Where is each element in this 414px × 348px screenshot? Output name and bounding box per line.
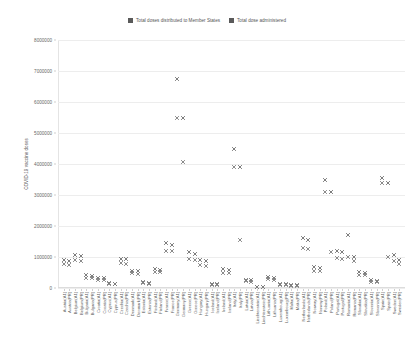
x-axis-tick-label-text: Finland(PR): [158, 292, 163, 314]
x-axis-tick-label-text: Netherlands(A1): [300, 292, 305, 322]
data-point-marker: [334, 248, 339, 253]
x-axis-tick-label-text: Luxembourg(PR): [283, 292, 288, 323]
data-point-marker: [186, 250, 191, 255]
x-axis-tick-label: Cyprus(PR): [115, 271, 120, 292]
x-axis-tick-label: Estonia(A1): [143, 271, 148, 292]
data-point-marker: [351, 258, 356, 263]
x-axis-tick-label: Greece(PR): [195, 270, 200, 292]
legend-swatch-administered: [229, 18, 234, 23]
x-axis-tick-label: Croatia(PR): [104, 271, 109, 292]
x-axis-tick-label: Luxembourg(A1): [280, 262, 285, 292]
x-axis-tick-label-text: Lithuania(PR): [272, 292, 277, 317]
x-axis-tick-label: France(A1): [166, 272, 171, 292]
x-axis-tick-label-text: Belgium(PR): [78, 292, 83, 315]
y-axis-tick-label: 5000000: [34, 131, 52, 136]
x-axis-tick-label-text: Poland(PR): [329, 292, 334, 313]
x-axis-tick-label-text: Latvia(PR): [249, 292, 254, 311]
x-axis-tick-label-text: Romania(A1): [346, 292, 351, 316]
x-axis-tick-label: Portugal(A1): [337, 269, 342, 292]
gridline: [58, 102, 405, 103]
x-axis-tick-label: Netherlands(A1): [303, 262, 308, 292]
y-axis-tick-mark: [54, 102, 56, 103]
x-axis-tick-label-text: Portugal(A1): [334, 292, 339, 315]
x-axis-tick-label: Lithuania(PR): [274, 267, 279, 292]
x-axis-tick-label: Cyprus(A1): [109, 271, 114, 292]
x-axis-tick-label: Romania(A1): [348, 268, 353, 292]
x-axis-tick-label: Belgium(A1): [75, 270, 80, 292]
legend-label-distributed: Total doses distributed to Member States: [136, 18, 220, 23]
legend-item-administered[interactable]: Total dose administered: [229, 18, 286, 23]
x-axis-tick-label-text: Norway(PR): [317, 292, 322, 314]
data-point-marker: [203, 258, 208, 263]
data-point-marker: [232, 165, 237, 170]
x-axis-tick-label: Bulgaria(A1): [86, 269, 91, 292]
y-axis-tick-mark: [54, 133, 56, 134]
x-axis-tick-label: Estonia(PR): [149, 270, 154, 292]
x-axis-tick-label: Denmark(A1): [132, 268, 137, 292]
y-axis-tick-mark: [54, 40, 56, 41]
data-point-marker: [306, 237, 311, 242]
x-axis-tick-label: Malta(A1): [291, 274, 296, 292]
legend-item-distributed[interactable]: Total doses distributed to Member States: [128, 18, 220, 23]
x-axis-tick-label: Iceland(PR): [217, 271, 222, 292]
gridline: [58, 195, 405, 196]
data-point-marker: [397, 258, 402, 263]
x-axis-tick-label: Ireland(PR): [229, 271, 234, 292]
x-axis-tick-label-text: Bulgaria(A1): [84, 292, 89, 315]
x-axis-tick-label-text: Cyprus(A1): [107, 292, 112, 313]
x-axis-tick-label: Spain(PR): [388, 273, 393, 292]
x-axis-tick-label: Luxembourg(PR): [286, 261, 291, 292]
x-axis-tick-label-text: Denmark(A1): [129, 292, 134, 316]
data-point-marker: [300, 236, 305, 241]
x-axis-tick-label-text: Italy(PR): [238, 292, 243, 308]
x-axis-tick-label: Croatia(A1): [98, 271, 103, 292]
x-axis-tick-label-text: Croatia(PR): [101, 292, 106, 313]
gridline: [58, 40, 405, 41]
data-point-marker: [118, 261, 123, 266]
legend-label-administered: Total dose administered: [237, 18, 286, 23]
x-axis-tick-label: Bulgaria(PR): [92, 269, 97, 292]
x-axis-tick-label: Spain(A1): [382, 274, 387, 292]
x-axis-tick-label-text: Ireland(A1): [220, 292, 225, 312]
x-axis-tick-label: Greece(A1): [189, 271, 194, 292]
x-axis-tick-label: Ireland(A1): [223, 272, 228, 292]
x-axis-tick-label: Portugal(PR): [342, 269, 347, 292]
x-axis-tick-label: Austria(A1): [64, 272, 69, 292]
x-axis-tick-label: Poland(PR): [331, 271, 336, 292]
data-point-marker: [198, 263, 203, 268]
x-axis-tick-label: Denmark(PR): [138, 267, 143, 292]
x-axis-tick-label: Italy(A1): [234, 277, 239, 292]
x-axis-tick-label-text: Cyprus(PR): [112, 292, 117, 313]
x-axis-tick-label: Italy(PR): [240, 276, 245, 292]
data-point-marker: [323, 177, 328, 182]
x-axis-tick-label: Czechia(PR): [126, 269, 131, 292]
x-axis-tick-label-text: Lithuania(A1): [266, 292, 271, 316]
data-point-marker: [385, 180, 390, 185]
x-axis-tick-label-text: Iceland(A1): [209, 292, 214, 313]
data-point-marker: [238, 237, 243, 242]
x-axis-tick-label-text: Netherlands(PR): [306, 292, 311, 322]
y-axis-tick-mark: [54, 71, 56, 72]
data-point-marker: [306, 247, 311, 252]
data-point-marker: [380, 180, 385, 185]
y-axis-tick-label: 7000000: [34, 69, 52, 74]
data-point-marker: [124, 261, 129, 266]
x-axis-tick-label: Belgium(PR): [81, 269, 86, 292]
x-axis-tick-label: Austria(PR): [69, 271, 74, 292]
data-point-marker: [169, 249, 174, 254]
x-axis-tick-label-text: Croatia(A1): [95, 292, 100, 313]
gridline: [58, 257, 405, 258]
data-point-marker: [340, 250, 345, 255]
x-axis-tick-label: Latvia(A1): [246, 274, 251, 292]
y-axis-tick-label: 8000000: [34, 38, 52, 43]
x-axis-tick-label-text: Iceland(PR): [215, 292, 220, 313]
legend-swatch-distributed: [128, 18, 133, 23]
x-axis-tick-label-text: Spain(A1): [380, 292, 385, 310]
data-point-marker: [78, 259, 83, 264]
y-axis-tick-label: 1000000: [34, 255, 52, 260]
data-point-marker: [73, 258, 78, 263]
x-axis-tick-label: Norway(PR): [320, 270, 325, 292]
x-axis-tick-label-text: Portugal(PR): [340, 292, 345, 315]
x-axis-tick-label-text: Sweden(PR): [397, 292, 402, 315]
x-axis-tick-label: Slovakia(PR): [365, 268, 370, 292]
